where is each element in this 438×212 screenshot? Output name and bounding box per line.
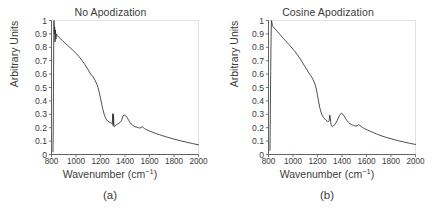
y-tick-label: 0.5	[252, 83, 264, 93]
y-tick-label: 0.2	[252, 123, 264, 133]
panel-b-caption: (b)	[231, 189, 423, 201]
panel-a-frame	[52, 21, 199, 155]
y-tick-label: 0.8	[252, 42, 264, 52]
panel-a-x-axis-label: Wavenumber (cm−1)	[14, 168, 206, 180]
x-tick-label: 1400	[116, 157, 135, 166]
y-tick-label: 0.8	[35, 42, 47, 52]
x-tick-label: 1200	[308, 157, 327, 166]
panel-b-y-ticks: 00.10.20.30.40.50.60.70.80.91	[252, 16, 268, 160]
x-tick-label: 1200	[91, 157, 110, 166]
y-tick-label: 0.9	[35, 29, 47, 39]
panel-a: No Apodization Arbitrary Units 00.10.20.…	[0, 0, 219, 212]
x-tick-label: 2000	[189, 157, 208, 166]
panel-a-caption: (a)	[14, 189, 206, 201]
x-tick-label: 1400	[333, 157, 352, 166]
panel-b-x-axis-label-close: )	[371, 168, 375, 180]
panel-b: Cosine Apodization Arbitrary Units 00.10…	[219, 0, 438, 212]
panel-b-x-ticks: 800100012001400160018002000	[262, 155, 425, 167]
y-tick-label: 0.2	[35, 123, 47, 133]
panel-b-plot: 00.10.20.30.40.50.60.70.80.91 8001000120…	[219, 0, 438, 212]
y-tick-label: 0.4	[35, 96, 47, 106]
y-tick-label: 0.6	[35, 69, 47, 79]
y-tick-label: 0.6	[252, 69, 264, 79]
y-tick-label: 1	[42, 16, 47, 26]
panel-b-x-axis-label-exponent: −1	[362, 167, 371, 176]
y-tick-label: 0.1	[35, 136, 47, 146]
x-tick-label: 1800	[165, 157, 184, 166]
panel-a-x-ticks: 800100012001400160018002000	[45, 155, 208, 167]
y-tick-label: 0.3	[35, 109, 47, 119]
x-tick-label: 1000	[67, 157, 86, 166]
x-tick-label: 800	[262, 157, 276, 166]
y-tick-label: 0.5	[35, 83, 47, 93]
x-tick-label: 800	[45, 157, 59, 166]
y-tick-label: 0.4	[252, 96, 264, 106]
x-tick-label: 1000	[284, 157, 303, 166]
y-tick-label: 0.1	[252, 136, 264, 146]
x-tick-label: 2000	[406, 157, 425, 166]
panel-a-plot: 00.10.20.30.40.50.60.70.80.91 8001000120…	[0, 0, 219, 212]
x-tick-label: 1600	[357, 157, 376, 166]
figure-container: No Apodization Arbitrary Units 00.10.20.…	[0, 0, 438, 212]
panel-a-x-axis-label-exponent: −1	[145, 167, 154, 176]
panel-b-x-axis-label-main: Wavenumber (cm	[280, 168, 362, 180]
panel-b-spectrum-line	[270, 21, 416, 151]
panel-a-spectrum-line	[53, 21, 199, 152]
x-tick-label: 1600	[140, 157, 159, 166]
y-tick-label: 0.3	[252, 109, 264, 119]
panel-b-frame	[269, 21, 416, 155]
y-tick-label: 0.7	[252, 56, 264, 66]
panel-a-x-axis-label-close: )	[154, 168, 158, 180]
y-tick-label: 0.7	[35, 56, 47, 66]
y-tick-label: 0.9	[252, 29, 264, 39]
y-tick-label: 1	[259, 16, 264, 26]
panel-a-y-ticks: 00.10.20.30.40.50.60.70.80.91	[35, 16, 51, 160]
panel-a-x-axis-label-main: Wavenumber (cm	[63, 168, 145, 180]
x-tick-label: 1800	[382, 157, 401, 166]
panel-b-x-axis-label: Wavenumber (cm−1)	[231, 168, 423, 180]
